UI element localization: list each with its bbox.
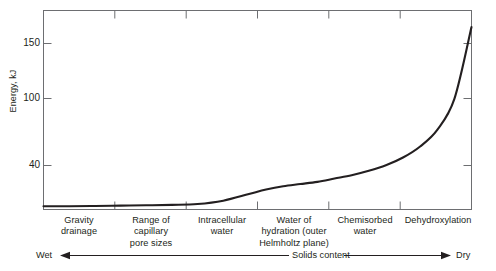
zone-line: water: [186, 226, 258, 237]
arrow-head-right-icon: [441, 252, 451, 259]
direction-label-solids-content: Solids content: [292, 250, 350, 261]
zone-line: Chemisorbed: [329, 215, 401, 226]
zone-line: hydration (outer: [252, 226, 336, 237]
zone-line: drainage: [43, 226, 115, 237]
zone-line: water: [329, 226, 401, 237]
zone-label-capillary-pore-sizes: Range of capillary pore sizes: [115, 215, 187, 249]
top-axis-zone-ticks: [115, 11, 400, 19]
energy-vs-solids-content-figure: Energy, kJ 150 100 40: [0, 0, 496, 271]
y-tick-label-100: 100: [6, 93, 40, 103]
y-axis-ticks: [44, 44, 52, 166]
zone-label-intracellular-water: Intracellular water: [186, 215, 258, 238]
energy-curve: [44, 27, 472, 206]
zone-label-dehydroxylation: Dehydroxylation: [398, 215, 478, 226]
y-axis-title: Energy, kJ: [8, 46, 18, 136]
zone-label-chemisorbed-water: Chemisorbed water: [329, 215, 401, 238]
zone-line: capillary: [115, 226, 187, 237]
zone-label-water-of-hydration: Water of hydration (outer Helmholtz plan…: [252, 215, 336, 249]
zone-line: Helmholtz plane): [252, 238, 336, 249]
zone-label-gravity-drainage: Gravity drainage: [43, 215, 115, 238]
zone-line: Dehydroxylation: [398, 215, 478, 226]
y-tick-label-40: 40: [6, 160, 40, 170]
direction-arrow: [60, 252, 451, 259]
plot-frame: [44, 11, 472, 210]
zone-line: Gravity: [43, 215, 115, 226]
direction-label-wet: Wet: [36, 250, 52, 261]
arrow-head-left-icon: [60, 252, 70, 259]
zone-line: pore sizes: [115, 238, 187, 249]
zone-line: Range of: [115, 215, 187, 226]
zone-line: Water of: [252, 215, 336, 226]
y-tick-label-150: 150: [6, 38, 40, 48]
direction-label-dry: Dry: [456, 250, 470, 261]
zone-line: Intracellular: [186, 215, 258, 226]
